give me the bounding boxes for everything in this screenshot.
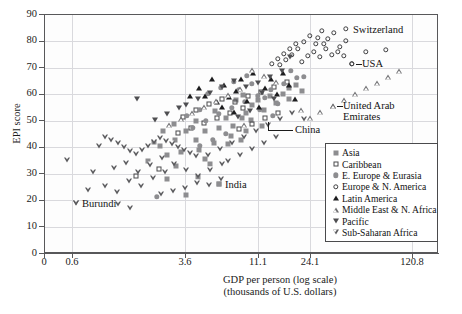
x-tick-label-3.6: 3.6 — [162, 257, 208, 268]
legend-item-sub-saharan-africa[interactable]: Sub-Saharan Africa — [330, 227, 434, 238]
open-triangle-up-icon — [330, 204, 341, 215]
filled-circle-icon — [270, 113, 275, 118]
open-triangle-down-icon — [114, 190, 120, 195]
legend-label: Caribbean — [342, 159, 381, 170]
open-triangle-down-icon — [206, 183, 212, 188]
legend-item-pacific[interactable]: Pacific — [330, 215, 434, 226]
open-circle-icon — [317, 54, 322, 59]
filled-circle-icon — [301, 74, 306, 79]
open-triangle-up-icon — [189, 111, 195, 116]
legend-item-asia[interactable]: Asia — [330, 147, 434, 158]
open-circle-icon — [277, 62, 282, 67]
open-triangle-up-icon — [317, 110, 323, 115]
open-triangle-down-icon — [225, 159, 231, 164]
y-tick-90 — [39, 14, 44, 15]
open-triangle-down-icon — [135, 170, 141, 175]
open-triangle-down-icon — [108, 138, 114, 143]
open-triangle-down-icon — [150, 176, 156, 181]
annotation-switzerland: Switzerland — [353, 24, 403, 35]
legend: AsiaCaribbeanE. Europe & EurasiaEurope &… — [325, 143, 438, 242]
open-square-icon — [333, 162, 338, 167]
filled-triangle-down-icon — [333, 219, 339, 224]
open-triangle-up-icon — [241, 123, 247, 128]
filled-triangle-down-icon — [176, 106, 182, 111]
open-circle-icon — [315, 35, 320, 40]
filled-circle-icon — [333, 173, 338, 178]
filled-square-icon — [300, 89, 305, 94]
filled-triangle-down-icon — [134, 97, 140, 102]
legend-item-latin-america[interactable]: Latin America — [330, 193, 434, 204]
open-square-icon — [220, 97, 225, 102]
open-triangle-down-icon — [193, 154, 199, 159]
open-triangle-down-icon — [289, 111, 295, 116]
open-circle-icon — [319, 28, 324, 33]
open-triangle-up-icon — [273, 80, 279, 85]
y-tick-50 — [39, 120, 44, 121]
annotation-burundi: Burundi — [82, 198, 116, 209]
filled-circle-icon — [190, 125, 195, 130]
filled-square-icon — [229, 134, 234, 139]
annotation-usa: USA — [362, 58, 383, 69]
filled-square-icon — [165, 177, 170, 182]
leader-line-china-horz — [268, 130, 293, 131]
y-tick-80 — [39, 41, 44, 42]
open-triangle-up-icon — [249, 68, 255, 73]
open-triangle-up-icon — [396, 69, 402, 74]
open-triangle-down-icon — [171, 162, 177, 167]
legend-label: E. Europe & Eurasia — [342, 170, 421, 181]
open-circle-icon — [341, 53, 346, 58]
open-square-icon — [157, 167, 162, 172]
open-triangle-down-icon — [237, 153, 243, 158]
open-circle-icon — [325, 36, 330, 41]
filled-triangle-down-icon — [287, 55, 293, 60]
open-circle-icon — [330, 181, 341, 192]
open-triangle-down-icon — [102, 184, 108, 189]
open-triangle-down-icon — [90, 170, 96, 175]
filled-square-icon — [260, 124, 265, 129]
legend-item-europe-n-america[interactable]: Europe & N. America — [330, 181, 434, 192]
x-tick-label-0.6: 0.6 — [49, 257, 95, 268]
open-circle-icon — [323, 46, 328, 51]
filled-triangle-down-icon — [267, 75, 273, 80]
filled-triangle-down-icon — [164, 112, 170, 117]
filled-square-icon — [161, 129, 166, 134]
filled-square-icon — [330, 147, 341, 158]
x-axis-title: GDP per person (log scale) (thousands of… — [150, 274, 410, 297]
y-tick-label-30: 30 — [0, 168, 37, 179]
filled-square-icon — [184, 193, 189, 198]
filled-circle-icon — [275, 101, 280, 106]
filled-circle-icon — [197, 143, 202, 148]
open-circle-icon — [343, 38, 348, 43]
filled-triangle-up-icon — [209, 77, 215, 82]
legend-label: Pacific — [342, 216, 369, 227]
legend-item-middle-east-n-africa[interactable]: Middle East & N. Africa — [330, 204, 434, 215]
filled-square-icon — [194, 138, 199, 143]
open-triangle-down-icon — [182, 186, 188, 191]
open-triangle-up-icon — [333, 207, 339, 212]
filled-triangle-down-icon — [255, 81, 261, 86]
filled-square-icon — [250, 103, 255, 108]
filled-square-icon — [165, 153, 170, 158]
open-triangle-down-icon — [73, 201, 79, 206]
legend-label: Middle East & N. Africa — [342, 204, 437, 215]
open-triangle-down-icon — [330, 227, 341, 238]
legend-item-e-europe-eurasia[interactable]: E. Europe & Eurasia — [330, 170, 434, 181]
filled-square-icon — [194, 119, 199, 124]
legend-item-caribbean[interactable]: Caribbean — [330, 158, 434, 169]
open-square-icon — [233, 100, 238, 105]
annotation-india: India — [225, 179, 247, 190]
open-triangle-down-icon — [162, 170, 168, 175]
open-triangle-down-icon — [333, 230, 339, 235]
open-triangle-up-icon — [363, 86, 369, 91]
y-axis-title: EPI score — [11, 79, 22, 169]
filled-triangle-down-icon — [243, 85, 249, 90]
open-circle-icon — [281, 51, 286, 56]
filled-triangle-down-icon — [247, 109, 253, 114]
y-tick-30 — [39, 173, 44, 174]
open-triangle-down-icon — [261, 141, 267, 146]
y-tick-label-80: 80 — [0, 35, 37, 46]
open-triangle-down-icon — [194, 181, 200, 186]
filled-circle-icon — [268, 87, 273, 92]
filled-triangle-up-icon — [333, 196, 339, 201]
open-triangle-down-icon — [96, 144, 102, 149]
